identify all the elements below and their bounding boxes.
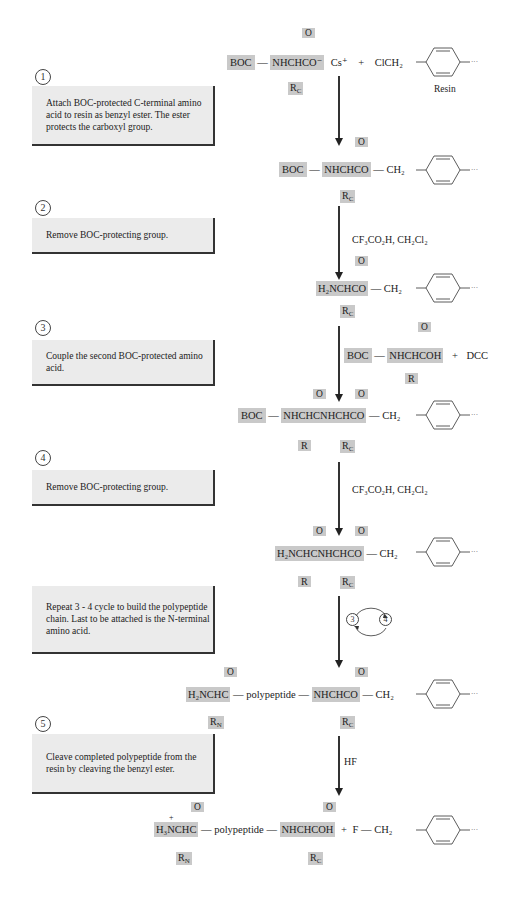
resin-label: Resin	[434, 84, 456, 94]
repeat-text: Repeat 3 - 4 cycle to build the polypept…	[46, 601, 213, 637]
cycle-step-3: 3	[346, 613, 359, 626]
structure-2: BOC — NHCHCO — CH₂	[279, 164, 405, 175]
benzene-ring-icon: ···	[414, 676, 484, 712]
step-number-3: 3	[35, 320, 51, 336]
reaction-arrow-6	[338, 736, 340, 794]
step-4-box: Remove BOC-protecting group.	[32, 470, 215, 506]
svg-text:···: ···	[471, 284, 478, 292]
benzene-ring-icon: ···	[414, 44, 484, 80]
svg-text:···: ···	[471, 826, 478, 834]
structure-4: BOC — NHCHCNHCHCO — CH₂	[238, 410, 400, 421]
reagent-deprotect-1: CF₃CO₂H, CH₂Cl₂	[352, 234, 428, 245]
benzene-ring-icon: ···	[414, 152, 484, 188]
plus-sign: +	[358, 57, 364, 68]
structure-1: BOC — NHCHCO⁻ Cs⁺ + ClCH₂	[227, 56, 403, 68]
benzene-ring-icon: ···	[414, 812, 484, 848]
svg-text:···: ···	[471, 411, 478, 419]
cesium-ion: Cs⁺	[331, 57, 348, 68]
step-4-text: Remove BOC-protecting group.	[46, 481, 168, 493]
step-2-text: Remove BOC-protecting group.	[46, 229, 168, 241]
svg-text:···: ···	[471, 548, 478, 556]
benzene-ring-icon: ···	[414, 534, 484, 570]
step-2-box: Remove BOC-protecting group.	[32, 218, 215, 254]
structure-6: H₂NCHC — polypeptide — NHCHCO — CH₂	[186, 689, 394, 700]
step-number-4: 4	[35, 450, 51, 466]
boc-group: BOC	[227, 55, 255, 70]
svg-text:···: ···	[471, 58, 478, 66]
structure-5: H₂NCHCNHCHCO — CH₂	[275, 548, 398, 559]
coupling-reagent: BOC — NHCHCOH + DCC	[344, 350, 488, 361]
step-3-text: Couple the second BOC-protected amino ac…	[46, 350, 213, 374]
step-number-1: 1	[35, 69, 51, 85]
svg-text:···: ···	[471, 690, 478, 698]
repeat-box: Repeat 3 - 4 cycle to build the polypept…	[32, 586, 215, 654]
reaction-arrow-4	[338, 462, 340, 534]
reagent-cleave: HF	[344, 756, 357, 767]
svg-text:···: ···	[471, 166, 478, 174]
reaction-arrow-1	[338, 76, 340, 144]
reaction-arrow-5	[338, 596, 340, 666]
amino-acid-core: NHCHCO⁻	[270, 55, 324, 70]
step-number-5: 5	[35, 716, 51, 732]
structure-3: H₂NCHCO — CH₂	[316, 283, 402, 294]
reaction-arrow-3	[338, 326, 340, 400]
side-chain-rc: RC	[288, 82, 303, 95]
step-5-box: Cleave completed polypeptide from the re…	[32, 734, 215, 794]
positive-charge: +	[169, 813, 174, 822]
cycle-step-4: 4	[379, 613, 392, 626]
chloromethyl-group: ClCH₂	[375, 57, 403, 68]
reaction-arrow-2	[338, 206, 340, 278]
step-1-box: Attach BOC-protected C-terminal amino ac…	[32, 86, 215, 146]
reagent-deprotect-2: CF₃CO₂H, CH₂Cl₂	[352, 484, 428, 495]
step-5-text: Cleave completed polypeptide from the re…	[46, 751, 213, 775]
benzene-ring-icon: ···	[414, 270, 484, 306]
step-number-2: 2	[35, 200, 51, 216]
structure-7: H₃NCHC — polypeptide — NHCHCOH + F — CH₂	[154, 824, 392, 835]
step-3-box: Couple the second BOC-protected amino ac…	[32, 340, 215, 386]
step-1-text: Attach BOC-protected C-terminal amino ac…	[46, 97, 213, 133]
carbonyl-oxygen: O	[302, 28, 315, 38]
benzene-ring-icon: ···	[414, 397, 484, 433]
